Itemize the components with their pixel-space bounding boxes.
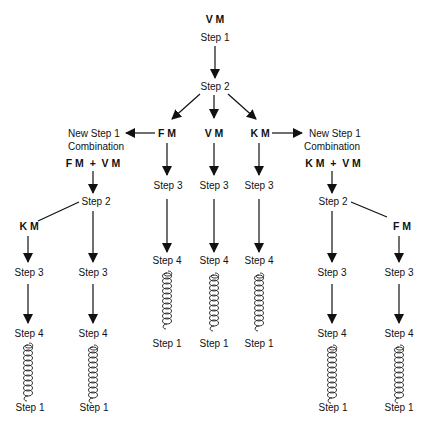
svg-text:Step 3: Step 3 (79, 267, 108, 278)
svg-text:Step 1: Step 1 (319, 402, 348, 413)
svg-text:Step 3: Step 3 (385, 267, 414, 278)
svg-text:Step 3: Step 3 (245, 180, 274, 191)
root-step1-label: Step 1 (201, 32, 230, 43)
helix-coil-icon (24, 343, 33, 401)
svg-text:Step 3: Step 3 (154, 180, 183, 191)
svg-text:Step 1: Step 1 (80, 402, 109, 413)
arrow-step2-to-km (228, 94, 256, 119)
helix-coil-icon (255, 273, 264, 331)
arrow-step2-to-fm (172, 94, 200, 119)
right-combo-title-1: New Step 1 (309, 128, 361, 139)
right-combo-step2: Step 2 (319, 196, 348, 207)
helix-coil-icon (89, 345, 98, 403)
branch-vm-label: V M (205, 127, 224, 139)
left-combo-title-1: New Step 1 (68, 128, 120, 139)
assembly-pathway-diagram: V M Step 1 Step 2 F M V M K M Step 3 Ste… (0, 0, 431, 431)
svg-text:Step 4: Step 4 (200, 255, 229, 266)
svg-text:Step 1: Step 1 (245, 338, 274, 349)
svg-text:Step 4: Step 4 (318, 328, 347, 339)
svg-text:Step 3: Step 3 (15, 267, 44, 278)
branch-km-label: K M (250, 127, 270, 139)
svg-text:Step 4: Step 4 (385, 328, 414, 339)
left-combo-formula: F M + V M (66, 157, 121, 169)
right-combo-formula: K M + V M (305, 157, 361, 169)
helix-coil-icon (210, 273, 219, 331)
middle-column-fm: Step 3 Step 4 Step 1 (153, 143, 183, 349)
svg-text:Step 1: Step 1 (153, 338, 182, 349)
svg-text:Step 4: Step 4 (15, 328, 44, 339)
root-vm-label: V M (206, 13, 225, 25)
left-combo-title-2: Combination (68, 141, 124, 152)
middle-column-km: Step 3 Step 4 Step 1 (245, 143, 274, 349)
right-combination: New Step 1 Combination K M + V M Step 2 … (304, 128, 414, 413)
svg-text:Step 1: Step 1 (385, 402, 414, 413)
right-combo-title-2: Combination (304, 141, 360, 152)
middle-column-vm: Step 3 Step 4 Step 1 (200, 143, 229, 349)
center-step2-label: Step 2 (201, 81, 230, 92)
svg-text:Step 1: Step 1 (200, 338, 229, 349)
svg-text:Step 3: Step 3 (318, 267, 347, 278)
right-combo-fm: F M (393, 220, 411, 232)
helix-coil-icon (328, 345, 337, 403)
left-combo-km: K M (19, 220, 39, 232)
svg-text:Step 4: Step 4 (245, 255, 274, 266)
branch-fm-label: F M (158, 127, 176, 139)
svg-text:Step 3: Step 3 (200, 180, 229, 191)
svg-text:Step 4: Step 4 (79, 328, 108, 339)
helix-coil-icon (395, 345, 404, 403)
left-combination: New Step 1 Combination F M + V M Step 2 … (15, 128, 125, 413)
svg-text:Step 4: Step 4 (153, 255, 182, 266)
svg-text:Step 1: Step 1 (16, 402, 45, 413)
helix-coil-icon (163, 271, 172, 329)
left-combo-step2: Step 2 (82, 196, 111, 207)
